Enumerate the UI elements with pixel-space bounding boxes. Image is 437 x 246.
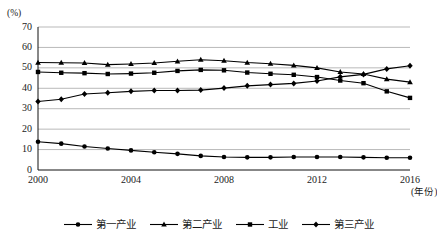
- data-point: [82, 71, 86, 75]
- x-axis-tick-label: 2000: [18, 174, 58, 185]
- y-axis-tick-label: 60: [10, 41, 32, 52]
- data-point: [35, 99, 40, 105]
- x-axis-tick-label: 2012: [297, 174, 337, 185]
- data-point: [152, 150, 157, 155]
- legend-item-label: 第三产业: [334, 219, 374, 230]
- data-point: [222, 155, 227, 160]
- data-point: [106, 72, 110, 76]
- data-point: [361, 71, 366, 77]
- legend-marker-triangle-icon: [149, 219, 179, 230]
- data-point: [245, 155, 250, 160]
- data-point: [152, 71, 156, 75]
- data-point: [268, 155, 273, 160]
- series-square: [36, 68, 412, 100]
- legend-item-label: 工业: [268, 219, 288, 230]
- x-axis-tick-label: 2004: [111, 174, 151, 185]
- data-point: [175, 152, 180, 157]
- y-axis-tick-label: 10: [10, 143, 32, 154]
- legend-marker-diamond-icon: [301, 219, 331, 230]
- data-point: [292, 73, 296, 77]
- data-point: [129, 71, 133, 75]
- data-point: [59, 96, 64, 102]
- data-point: [59, 71, 63, 75]
- chart-legend: 第一产业第二产业工业第三产业: [0, 219, 437, 230]
- y-axis-tick-label: 40: [10, 82, 32, 93]
- legend-item[interactable]: 工业: [235, 219, 288, 230]
- data-point: [385, 89, 389, 93]
- data-point: [129, 148, 134, 153]
- data-point: [291, 155, 296, 160]
- y-axis-tick-label: 0: [10, 164, 32, 175]
- line-chart-plot: [0, 0, 437, 246]
- data-point: [268, 72, 272, 76]
- x-axis-tick-label: 2016: [390, 174, 430, 185]
- legend-marker-circle-icon: [63, 219, 93, 230]
- data-point: [82, 91, 87, 97]
- data-point: [59, 141, 64, 146]
- legend-item[interactable]: 第一产业: [63, 219, 136, 230]
- data-point: [291, 80, 296, 86]
- data-point: [128, 88, 133, 94]
- data-point: [268, 82, 273, 88]
- y-axis-tick-label: 30: [10, 102, 32, 113]
- data-point: [408, 155, 413, 160]
- data-point: [361, 155, 366, 160]
- data-point: [245, 70, 249, 74]
- data-point: [105, 146, 110, 151]
- legend-item[interactable]: 第二产业: [149, 219, 222, 230]
- y-axis-tick-label: 70: [10, 21, 32, 32]
- data-point: [338, 155, 343, 160]
- data-point: [175, 69, 179, 73]
- data-point: [105, 90, 110, 96]
- data-point: [222, 68, 226, 72]
- data-point: [36, 140, 41, 145]
- y-axis-tick-label: 20: [10, 123, 32, 134]
- x-axis-tick-label: 2008: [204, 174, 244, 185]
- legend-item-label: 第一产业: [96, 219, 136, 230]
- data-point: [198, 154, 203, 159]
- axis-lines: [38, 27, 410, 170]
- data-point: [315, 155, 320, 160]
- data-point: [199, 68, 203, 72]
- data-point: [384, 66, 389, 72]
- legend-item-label: 第二产业: [182, 219, 222, 230]
- data-point: [408, 96, 412, 100]
- data-point: [82, 144, 87, 149]
- legend-item[interactable]: 第三产业: [301, 219, 374, 230]
- data-point: [36, 70, 40, 74]
- y-axis-tick-label: 50: [10, 61, 32, 72]
- data-point: [361, 81, 365, 85]
- data-point: [221, 85, 226, 91]
- legend-marker-square-icon: [235, 219, 265, 230]
- data-point: [384, 155, 389, 160]
